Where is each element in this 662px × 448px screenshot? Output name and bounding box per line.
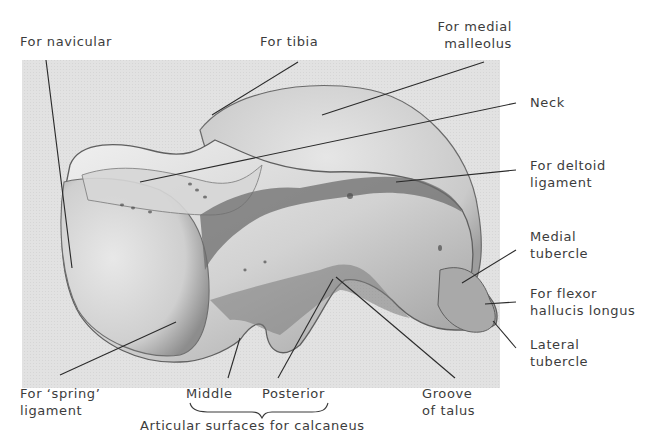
label-for-spring-ligament: For ‘spring’ ligament (20, 385, 100, 419)
articular-brace (190, 403, 328, 418)
label-text: Neck (530, 94, 565, 111)
talus-diagram: For navicular For tibia For medial malle… (0, 0, 662, 448)
label-text: hallucis longus (530, 302, 635, 319)
label-groove-of-talus: Groove of talus (422, 385, 475, 419)
label-articular-surfaces-for-calcaneus: Articular surfaces for calcaneus (140, 417, 365, 434)
label-text: For flexor (530, 285, 635, 302)
label-for-deltoid-ligament: For deltoid ligament (530, 157, 606, 191)
label-middle: Middle (186, 385, 233, 402)
label-for-medial-malleolus: For medial malleolus (420, 18, 512, 52)
label-neck: Neck (530, 94, 565, 111)
label-text: For deltoid (530, 157, 606, 174)
label-posterior: Posterior (262, 385, 325, 402)
label-text: tubercle (530, 245, 588, 262)
label-text: For medial (420, 18, 512, 35)
label-text: For tibia (260, 33, 318, 50)
label-text: tubercle (530, 353, 588, 370)
talus-illustration (0, 0, 662, 448)
label-text: Middle (186, 385, 233, 402)
label-text: For navicular (20, 33, 112, 50)
label-for-flexor-hallucis-longus: For flexor hallucis longus (530, 285, 635, 319)
label-for-navicular: For navicular (20, 33, 112, 50)
label-text: Groove (422, 385, 475, 402)
label-text: Medial (530, 228, 588, 245)
label-text: Posterior (262, 385, 325, 402)
label-text: Articular surfaces for calcaneus (140, 417, 365, 434)
label-text: Lateral (530, 336, 588, 353)
label-medial-tubercle: Medial tubercle (530, 228, 588, 262)
label-text: ligament (530, 174, 606, 191)
label-for-tibia: For tibia (260, 33, 318, 50)
label-text: of talus (422, 402, 475, 419)
label-text: For ‘spring’ (20, 385, 100, 402)
label-text: ligament (20, 402, 100, 419)
label-lateral-tubercle: Lateral tubercle (530, 336, 588, 370)
label-text: malleolus (420, 35, 512, 52)
